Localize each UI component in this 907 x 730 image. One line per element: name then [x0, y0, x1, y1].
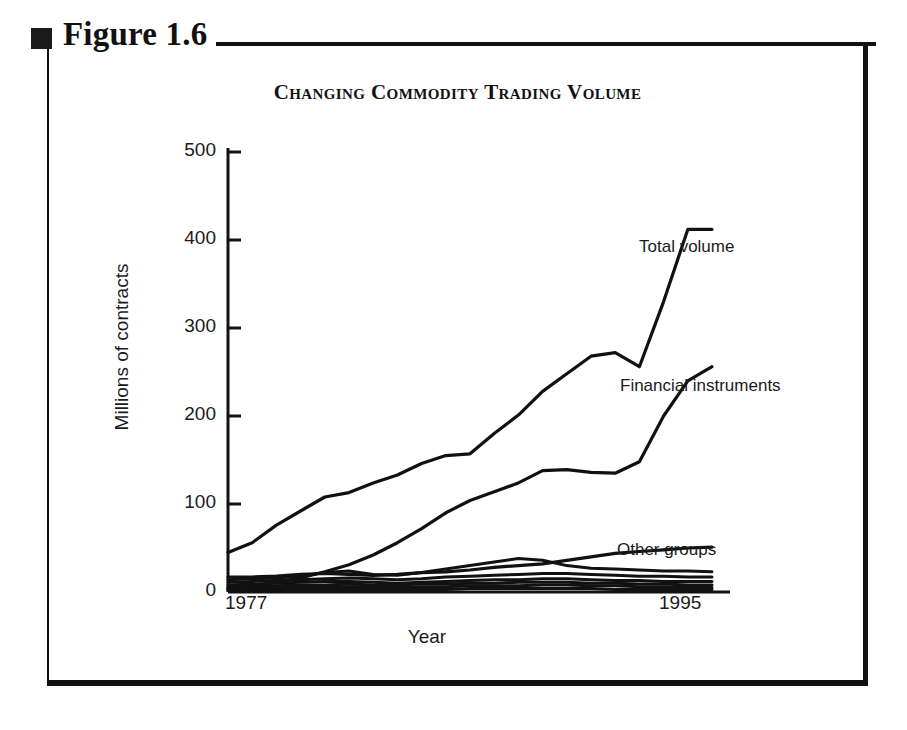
x-tick-1995: 1995 — [659, 592, 701, 614]
series-annotation-financial-instruments: Financial instruments — [620, 376, 781, 396]
series-line-unlabelled-group-6 — [228, 589, 712, 591]
series-annotation-total-volume: Total volume — [639, 237, 734, 257]
x-tick-1977: 1977 — [225, 592, 267, 614]
figure-frame: Changing Commodity Trading Volume Millio… — [47, 46, 868, 686]
y-tick-200: 200 — [158, 403, 216, 425]
y-tick-300: 300 — [158, 315, 216, 337]
x-axis-label: Year — [177, 626, 677, 648]
plot-area: Millions of contracts Year 1977 1995 Tot… — [47, 46, 868, 686]
y-tick-100: 100 — [158, 491, 216, 513]
y-axis-label: Millions of contracts — [111, 237, 133, 457]
y-tick-0: 0 — [158, 579, 216, 601]
y-tick-400: 400 — [158, 227, 216, 249]
series-annotation-other-groups: Other groups — [617, 540, 716, 560]
y-tick-500: 500 — [158, 139, 216, 161]
